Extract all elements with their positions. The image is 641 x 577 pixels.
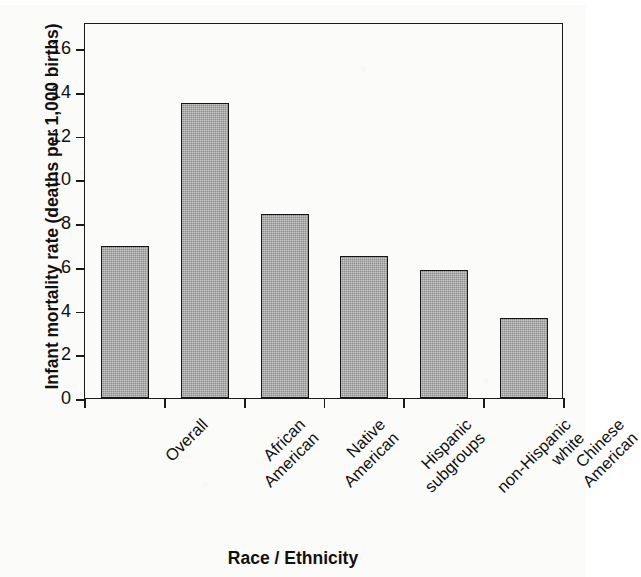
- y-tick-label: 12: [33, 126, 71, 147]
- y-tick-label: 0: [33, 388, 71, 409]
- category-label-overall: Overall: [161, 415, 211, 465]
- y-tick-mark: [76, 355, 85, 357]
- top-crop-edge: [0, 0, 586, 5]
- category-label-line1: Overall: [161, 415, 211, 465]
- category-label-chinese-american: ChineseAmerican: [565, 415, 641, 491]
- y-tick-label: 6: [33, 257, 71, 278]
- bar-chinese-american: [500, 318, 548, 398]
- bar-hispanic-subgroups: [340, 256, 388, 398]
- category-label-native-american: NativeAmerican: [326, 415, 402, 491]
- y-tick-label: 8: [33, 213, 71, 234]
- bar-overall: [101, 246, 149, 398]
- bar-african-american: [181, 103, 229, 398]
- y-tick-mark: [76, 224, 85, 226]
- y-tick-label: 4: [33, 301, 71, 322]
- x-tick-mark: [84, 398, 86, 408]
- y-tick-mark: [76, 180, 85, 182]
- y-tick-label: 16: [33, 38, 71, 59]
- x-tick-mark: [403, 398, 405, 408]
- y-tick-label: 10: [33, 169, 71, 190]
- y-tick-mark: [76, 312, 85, 314]
- bar-native-american: [261, 214, 309, 398]
- category-label-hispanic-subgroups: Hispanicsubgroups: [408, 415, 489, 496]
- bar-non-hispanic-white: [420, 270, 468, 398]
- x-tick-mark: [244, 398, 246, 408]
- y-tick-mark: [76, 137, 85, 139]
- y-tick-mark: [76, 93, 85, 95]
- x-axis-title: Race / Ethnicity: [0, 548, 586, 569]
- y-tick-label: 14: [33, 82, 71, 103]
- x-tick-mark: [483, 398, 485, 408]
- plot-area: 0246810121416: [84, 23, 563, 399]
- y-tick-label: 2: [33, 344, 71, 365]
- x-tick-mark: [164, 398, 166, 408]
- y-tick-mark: [76, 268, 85, 270]
- y-tick-mark: [76, 49, 85, 51]
- category-label-african-american: AfricanAmerican: [246, 415, 322, 491]
- x-tick-mark: [324, 398, 326, 408]
- x-tick-mark: [563, 398, 565, 408]
